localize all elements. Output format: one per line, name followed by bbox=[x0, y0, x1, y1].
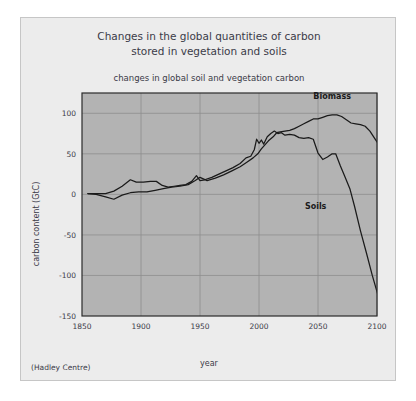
x-tick-label: 1850 bbox=[72, 322, 91, 331]
series-annotation-soils: Soils bbox=[305, 202, 327, 211]
y-tick-label: 0 bbox=[71, 190, 76, 199]
y-tick-label: 100 bbox=[62, 109, 77, 118]
x-tick-label: 2000 bbox=[249, 322, 268, 331]
x-tick-label: 1900 bbox=[131, 322, 150, 331]
chart-title-line2: stored in vegetation and soils bbox=[131, 45, 287, 57]
carbon-chart-figure: Changes in the global quantities of carb… bbox=[21, 18, 397, 382]
x-axis-label: year bbox=[200, 359, 219, 368]
x-tick-label: 2100 bbox=[367, 322, 386, 331]
series-annotation-biomass: Biomass bbox=[313, 92, 351, 101]
chart-title-line1: Changes in the global quantities of carb… bbox=[97, 30, 320, 42]
y-tick-label: -50 bbox=[64, 231, 76, 240]
y-axis-label: carbon content (GtC) bbox=[32, 182, 41, 267]
x-tick-label: 2050 bbox=[308, 322, 327, 331]
plot-background bbox=[82, 93, 377, 316]
y-tick-label: -100 bbox=[59, 271, 76, 280]
plot-area: 185019001950200020502100100500-50-100-15… bbox=[59, 92, 387, 331]
y-tick-label: -150 bbox=[59, 312, 76, 321]
x-tick-label: 1950 bbox=[190, 322, 209, 331]
chart-card: Changes in the global quantities of carb… bbox=[20, 17, 396, 381]
y-tick-label: 50 bbox=[66, 150, 76, 159]
chart-subtitle: changes in global soil and vegetation ca… bbox=[113, 73, 304, 83]
